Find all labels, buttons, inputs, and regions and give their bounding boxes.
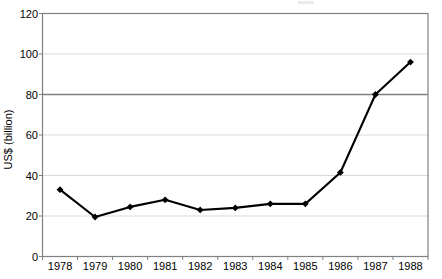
x-axis-tick-label: 1985	[293, 260, 317, 272]
line-chart: US$ (billion) 020406080100120 1978197919…	[0, 0, 442, 279]
data-point-marker	[267, 200, 274, 207]
x-axis-tick-label: 1983	[223, 260, 247, 272]
x-axis-tick-label: 1981	[153, 260, 177, 272]
x-axis-tick-label: 1982	[188, 260, 212, 272]
data-point-marker	[127, 203, 134, 210]
data-point-marker	[232, 205, 239, 212]
x-axis-tick-label: 1988	[398, 260, 422, 272]
x-axis-tick-label: 1987	[363, 260, 387, 272]
data-point-markers	[57, 59, 414, 221]
x-axis-tick-labels: 1978197919801981198219831984198519861987…	[42, 260, 428, 278]
x-axis-tick-label: 1986	[328, 260, 352, 272]
plot-area	[0, 0, 442, 279]
gridlines	[43, 14, 429, 217]
x-axis-tick-label: 1978	[48, 260, 72, 272]
x-axis-tick-label: 1979	[83, 260, 107, 272]
x-axis-tick-label: 1984	[258, 260, 282, 272]
data-point-marker	[197, 207, 204, 214]
data-point-marker	[162, 196, 169, 203]
data-series-line	[60, 62, 410, 217]
x-axis-tick-label: 1980	[118, 260, 142, 272]
